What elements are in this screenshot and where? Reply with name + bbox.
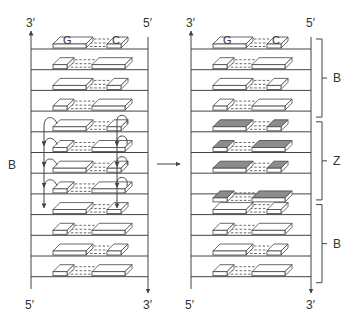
base-slab-front <box>213 210 246 214</box>
base-slab-front <box>107 168 121 172</box>
base-slab-front <box>92 65 125 69</box>
base-slab-front <box>267 251 281 255</box>
base-pair-row <box>31 120 148 132</box>
right-panel-b-z-dna: GC BZB 3′ 5′ 5′ 3′ <box>185 16 341 312</box>
base-pair-row <box>31 244 148 256</box>
base-slab-front <box>252 198 285 202</box>
base-slab-front <box>267 210 281 214</box>
base-slab-front <box>53 168 86 172</box>
left-panel-b-dna: GC 3′ 5′ 5′ 3′ B <box>8 16 153 312</box>
base-pair-row <box>191 203 311 215</box>
base-slab-front <box>252 272 285 276</box>
base-slab-front <box>107 210 121 214</box>
base-pair-row <box>191 58 311 70</box>
base-slab-front <box>213 65 227 69</box>
base-slab-front <box>53 65 67 69</box>
base-slab-front <box>92 106 125 110</box>
base-slab-front <box>252 230 285 234</box>
base-slab-front <box>53 127 86 131</box>
base-pair-row <box>31 99 148 111</box>
base-pair-row <box>31 161 148 173</box>
right-bottom-right-label: 3′ <box>306 298 316 312</box>
dna-transition-diagram: GC 3′ 5′ 5′ 3′ B GC BZB 3′ 5′ 5′ 3′ <box>0 0 364 333</box>
base-pair-row <box>31 223 148 235</box>
base-label-c: C <box>112 34 120 46</box>
base-slab-front <box>53 106 67 110</box>
base-pair-row <box>191 78 311 90</box>
base-pair-row <box>191 191 311 202</box>
base-pair-row <box>191 99 311 111</box>
base-pair-row: GC <box>31 34 148 49</box>
base-pair-row <box>31 265 148 277</box>
base-slab-front <box>92 272 125 276</box>
base-slab-front <box>107 127 121 131</box>
base-pair-row <box>191 244 311 256</box>
base-pair-row <box>191 223 311 235</box>
base-slab-front <box>53 85 86 89</box>
left-bottom-right-label: 3′ <box>143 298 153 312</box>
right-top-left-label: 3′ <box>186 16 196 30</box>
base-slab-front <box>92 189 125 193</box>
base-slab-front <box>213 85 246 89</box>
base-pair-row: GC <box>191 34 311 49</box>
base-pair-row <box>31 58 148 70</box>
form-label: B <box>333 237 341 251</box>
base-slab-front <box>213 198 227 202</box>
base-slab-front <box>53 272 67 276</box>
right-base-pair-rows: GC <box>191 34 311 277</box>
bracket <box>316 39 322 117</box>
base-slab-front <box>53 210 86 214</box>
right-top-right-label: 5′ <box>306 16 316 30</box>
base-slab-front <box>92 148 125 152</box>
base-label-g: G <box>63 34 72 46</box>
base-slab-front <box>213 106 227 110</box>
base-slab-front <box>267 127 281 131</box>
base-pair-row <box>31 141 148 153</box>
base-pair-row <box>191 161 311 173</box>
base-pair-row <box>191 141 311 153</box>
bracket <box>316 122 322 200</box>
base-slab-front <box>107 251 121 255</box>
base-label-c: C <box>272 34 280 46</box>
bracket <box>316 205 322 283</box>
base-slab-front <box>53 230 67 234</box>
right-bottom-left-label: 5′ <box>185 298 195 312</box>
base-pair-row <box>191 265 311 277</box>
base-slab-front <box>53 148 67 152</box>
base-pair-row <box>31 78 148 90</box>
base-slab-front <box>53 251 86 255</box>
base-slab-front <box>213 168 246 172</box>
left-base-pair-rows: GC <box>31 34 148 277</box>
base-slab-front <box>213 127 246 131</box>
left-form-label: B <box>8 158 16 172</box>
form-label: B <box>333 71 341 85</box>
base-slab-front <box>107 85 121 89</box>
base-slab-front <box>213 251 246 255</box>
base-slab-front <box>267 168 281 172</box>
base-slab-front <box>252 65 285 69</box>
base-label-g: G <box>223 34 232 46</box>
base-slab-front <box>213 148 227 152</box>
base-pair-row <box>31 182 148 194</box>
base-pair-row <box>191 120 311 132</box>
base-slab-front <box>213 230 227 234</box>
base-pair-row <box>31 203 148 215</box>
base-slab-front <box>267 85 281 89</box>
base-slab-front <box>53 189 67 193</box>
base-slab-front <box>252 106 285 110</box>
left-bottom-left-label: 5′ <box>25 298 35 312</box>
base-slab-front <box>252 148 285 152</box>
left-top-left-label: 3′ <box>26 16 36 30</box>
form-brackets: BZB <box>316 39 341 283</box>
left-top-right-label: 5′ <box>143 16 153 30</box>
form-label: Z <box>333 154 340 168</box>
base-slab-front <box>213 272 227 276</box>
base-slab-front <box>92 230 125 234</box>
